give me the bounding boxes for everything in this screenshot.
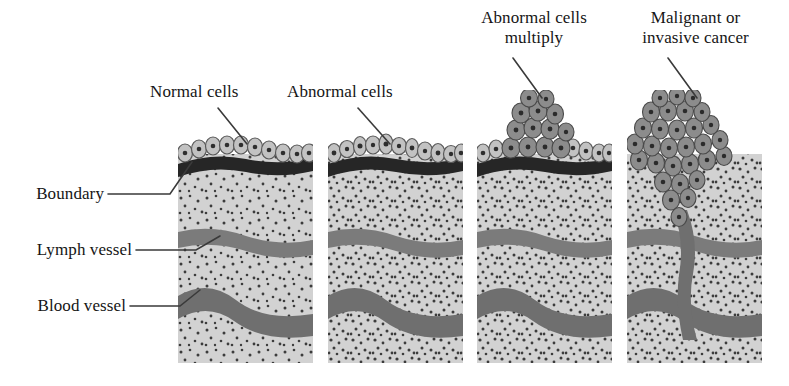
panel-multiply (477, 90, 612, 363)
label-lymph-vessel: Lymph vessel (0, 240, 132, 260)
label-normal-cells: Normal cells (150, 82, 239, 102)
panel-abnormal (328, 128, 463, 363)
panel-malignant (627, 90, 762, 363)
label-blood-vessel: Blood vessel (0, 296, 126, 316)
label-boundary: Boundary (0, 184, 104, 204)
figure-canvas: Normal cells Abnormal cells Abnormal cel… (0, 0, 789, 386)
panel-normal (178, 128, 313, 363)
label-multiply-line-2: multiply (459, 28, 609, 48)
label-abnormal-cells-multiply: Abnormal cells multiply (459, 8, 609, 48)
label-malignant-line-2: invasive cancer (613, 28, 778, 48)
label-abnormal-cells: Abnormal cells (287, 82, 393, 102)
label-multiply-line-1: Abnormal cells (459, 8, 609, 28)
label-malignant-invasive-cancer: Malignant or invasive cancer (613, 8, 778, 48)
label-malignant-line-1: Malignant or (613, 8, 778, 28)
